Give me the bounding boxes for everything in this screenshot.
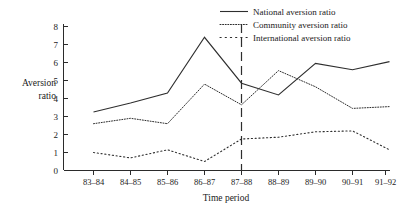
x-tick-label-6: 89–90 [305, 177, 326, 187]
x-tick-label-0: 83–84 [83, 177, 105, 187]
x-tick-label-5: 88–89 [268, 177, 289, 187]
y-tick-label-2: 2 [54, 130, 59, 140]
x-tick-label-1: 84–85 [120, 177, 141, 187]
y-tick-label-6: 6 [54, 58, 59, 68]
x-axis-title: Time period [203, 193, 250, 203]
legend-label-national: National aversion ratio [253, 7, 336, 17]
x-tick-label-7: 90–91 [342, 177, 363, 187]
legend-label-community: Community aversion ratio [253, 20, 348, 30]
x-tick-label-3: 86–87 [194, 177, 215, 187]
y-tick-label-1: 1 [54, 148, 59, 158]
x-tick-label-4: 87–88 [231, 177, 252, 187]
legend: National aversion ratio Community aversi… [220, 7, 351, 43]
chart-figure: 8 7 6 5 4 3 2 1 0 83–84 84–85 8 [0, 0, 398, 211]
aversion-ratio-line-chart: 8 7 6 5 4 3 2 1 0 83–84 84–85 8 [0, 0, 398, 211]
y-tick-label-0: 0 [54, 166, 59, 176]
y-tick-label-3: 3 [54, 112, 59, 122]
legend-label-international: International aversion ratio [253, 33, 351, 43]
y-axis-title-line2: ratio [39, 91, 57, 101]
x-axis-ticks: 83–84 84–85 85–86 86–87 87–88 88–89 89–9… [83, 171, 396, 188]
y-axis-title-line1: Aversion [22, 78, 56, 88]
y-tick-label-8: 8 [54, 22, 59, 32]
x-tick-label-8: 91–92 [375, 177, 396, 187]
x-tick-label-2: 85–86 [157, 177, 178, 187]
y-tick-label-7: 7 [54, 40, 59, 50]
